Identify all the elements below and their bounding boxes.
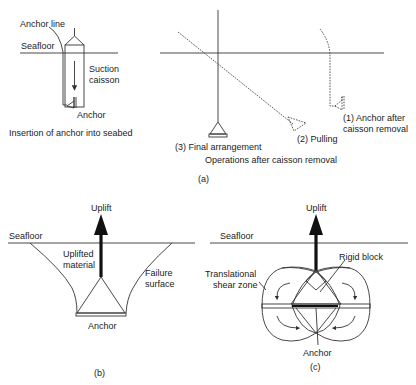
removed-anchor-icon <box>335 96 342 110</box>
flow-arrow-icon <box>277 316 298 328</box>
caisson-cap <box>65 36 84 45</box>
rigid-block-leader <box>320 260 345 292</box>
uplift-label-b: Uplift <box>91 203 112 213</box>
anchor-diagram: Anchor line Seafloor Suction caisson Anc… <box>0 0 416 385</box>
failure-label-1: Failure <box>145 268 173 278</box>
failure-surface-right <box>126 243 172 313</box>
insertion-title: Insertion of anchor into seabed <box>9 128 133 138</box>
anchor-line-label: Anchor line <box>20 19 65 29</box>
removed-anchor-line <box>320 29 336 106</box>
panel-b: Uplift Seafloor Uplifted material Failur… <box>8 203 195 378</box>
seafloor-label-a: Seafloor <box>21 41 55 51</box>
anchor-line <box>49 27 67 105</box>
material-label-1: Uplifted <box>63 249 94 259</box>
caption-b: (b) <box>94 368 105 378</box>
pulling-line <box>178 32 293 124</box>
flow-arrow-icon <box>277 283 290 298</box>
step1-label-2: caisson removal <box>343 124 408 134</box>
step3-label: (3) Final arrangement <box>175 142 262 152</box>
anchor-label-c: Anchor <box>303 348 332 358</box>
rigid-block-label: Rigid block <box>339 252 384 262</box>
anchor-plate <box>209 134 227 137</box>
final-anchor-icon <box>210 122 226 134</box>
caption-c: (c) <box>310 362 321 372</box>
shear-zone-label-1: Translational <box>205 269 256 279</box>
pulling-anchor-icon <box>288 117 306 131</box>
seafloor-label-b: Seafloor <box>9 231 43 241</box>
flow-arrow-icon <box>334 316 355 328</box>
material-label-2: material <box>63 260 95 270</box>
caption-a: (a) <box>198 174 209 184</box>
caisson-label-1: Suction <box>89 64 119 74</box>
panel-a-operations: (1) Anchor after caisson removal (2) Pul… <box>160 10 408 184</box>
operations-title: Operations after caisson removal <box>205 155 337 165</box>
uplift-arrow-icon <box>94 214 108 235</box>
panel-c: Uplift Seafloor Rigid block Translationa… <box>205 203 408 372</box>
flow-arrow-icon <box>342 283 355 298</box>
step2-label: (2) Pulling <box>297 134 338 144</box>
anchor-label-b: Anchor <box>88 321 117 331</box>
seafloor-label-c: Seafloor <box>220 231 254 241</box>
anchor-icon <box>67 97 74 108</box>
step1-label-1: (1) Anchor after <box>343 113 405 123</box>
anchor-label-a: Anchor <box>77 110 106 120</box>
uplift-label-c: Uplift <box>306 203 327 213</box>
panel-a-insertion: Anchor line Seafloor Suction caisson Anc… <box>9 19 133 138</box>
shear-zone-label-2: shear zone <box>213 280 258 290</box>
anchor-icon-b <box>77 277 125 313</box>
anchor-leader <box>316 308 318 345</box>
uplift-arrow-icon-c <box>309 214 323 235</box>
failure-label-2: surface <box>145 279 175 289</box>
caisson-label-2: caisson <box>89 75 120 85</box>
